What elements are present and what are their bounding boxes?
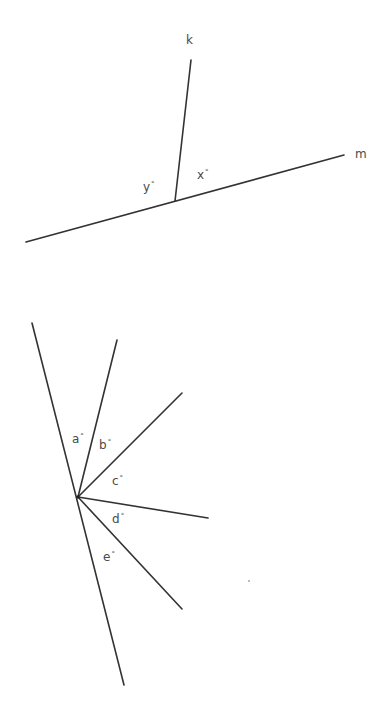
- main-line: [32, 323, 124, 685]
- angle-x-label: x°: [197, 168, 209, 182]
- ray-2: [78, 393, 182, 497]
- speck: [248, 580, 250, 582]
- rays: [78, 340, 208, 609]
- line-k-label: k: [186, 33, 193, 47]
- angle-y-label: y°: [143, 180, 155, 194]
- line-m-label: m: [355, 147, 367, 161]
- vertex-point: [76, 495, 80, 499]
- geometry-diagram: k m y° x° a° b° c° d° e°: [0, 0, 381, 720]
- line-k: [175, 60, 191, 201]
- angle-c-label: c°: [112, 474, 123, 488]
- angle-e-label: e°: [103, 550, 115, 564]
- figure-bottom: a° b° c° d° e°: [32, 323, 208, 685]
- angle-b-label: b°: [99, 438, 111, 452]
- ray-4: [78, 497, 182, 609]
- angle-d-label: d°: [112, 512, 124, 526]
- figure-top: k m y° x°: [26, 33, 367, 242]
- angle-a-label: a°: [72, 432, 84, 446]
- line-m: [26, 155, 344, 242]
- ray-3: [78, 497, 208, 518]
